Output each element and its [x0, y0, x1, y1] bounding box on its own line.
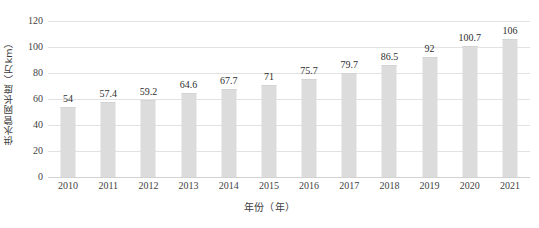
bar-value-label: 86.5: [381, 52, 399, 62]
bar[interactable]: [382, 65, 397, 177]
bar-slot: 64.6: [169, 21, 209, 177]
bar-value-label: 59.2: [140, 87, 158, 97]
x-axis-tick-labels: 2010201120122013201420152016201720182019…: [48, 181, 530, 197]
bar-slot: 92: [410, 21, 450, 177]
bar-value-label: 79.7: [340, 60, 358, 70]
y-axis-title-label: 供水管网长度（万km）: [2, 38, 16, 145]
bar[interactable]: [141, 100, 156, 177]
bar-value-label: 64.6: [180, 80, 198, 90]
y-axis-tick-label: 100: [28, 42, 43, 52]
x-axis-tick-label: 2018: [379, 181, 399, 191]
bar-slot: 79.7: [329, 21, 369, 177]
bar-value-label: 106: [502, 26, 517, 36]
bar-slot: 57.4: [88, 21, 128, 177]
bar-value-label: 67.7: [220, 76, 238, 86]
bar[interactable]: [302, 79, 317, 177]
bar-value-label: 57.4: [99, 89, 117, 99]
bar[interactable]: [462, 46, 477, 177]
bar-value-label: 75.7: [300, 66, 318, 76]
bar-slot: 106: [490, 21, 530, 177]
x-axis-tick-label: 2014: [219, 181, 239, 191]
y-axis-tick-label: 80: [33, 68, 43, 78]
y-axis-tick-label: 0: [38, 172, 43, 182]
x-axis-tick-label: 2017: [339, 181, 359, 191]
y-axis-tick-label: 40: [33, 120, 43, 130]
y-axis-title: 供水管网长度（万km）: [0, 0, 18, 182]
bar-value-label: 54: [63, 94, 73, 104]
bar-slot: 75.7: [289, 21, 329, 177]
x-axis-tick-label: 2015: [259, 181, 279, 191]
y-axis-tick-label: 20: [33, 146, 43, 156]
bars-layer: 5457.459.264.667.77175.779.786.592100.71…: [48, 21, 530, 177]
bar-slot: 54: [48, 21, 88, 177]
bar-slot: 71: [249, 21, 289, 177]
x-axis-tick-label: 2019: [420, 181, 440, 191]
x-axis-tick-label: 2010: [58, 181, 78, 191]
bar[interactable]: [342, 73, 357, 177]
bar-slot: 59.2: [128, 21, 168, 177]
bar[interactable]: [422, 57, 437, 177]
bar-chart: 供水管网长度（万km） 020406080100120 5457.459.264…: [0, 0, 539, 228]
x-axis-tick-label: 2011: [98, 181, 118, 191]
bar-slot: 67.7: [209, 21, 249, 177]
x-axis-tick-label: 2021: [500, 181, 520, 191]
y-axis-tick-label: 60: [33, 94, 43, 104]
plot-area: 020406080100120 5457.459.264.667.77175.7…: [48, 21, 530, 177]
x-axis-tick-label: 2013: [179, 181, 199, 191]
bar[interactable]: [101, 102, 116, 177]
x-axis-tick-label: 2012: [138, 181, 158, 191]
bar[interactable]: [61, 107, 76, 177]
bar[interactable]: [502, 39, 517, 177]
bar-value-label: 71: [264, 72, 274, 82]
bar[interactable]: [181, 93, 196, 177]
x-axis-tick-label: 2016: [299, 181, 319, 191]
y-axis-tick-label: 120: [28, 16, 43, 26]
bar-value-label: 92: [425, 44, 435, 54]
bar[interactable]: [261, 85, 276, 177]
bar-value-label: 100.7: [458, 33, 481, 43]
bar-slot: 100.7: [450, 21, 490, 177]
bar-slot: 86.5: [369, 21, 409, 177]
x-axis-title: 年份（年）: [0, 199, 539, 214]
x-axis-tick-label: 2020: [460, 181, 480, 191]
x-axis-baseline: 0: [48, 177, 530, 178]
bar[interactable]: [221, 89, 236, 177]
